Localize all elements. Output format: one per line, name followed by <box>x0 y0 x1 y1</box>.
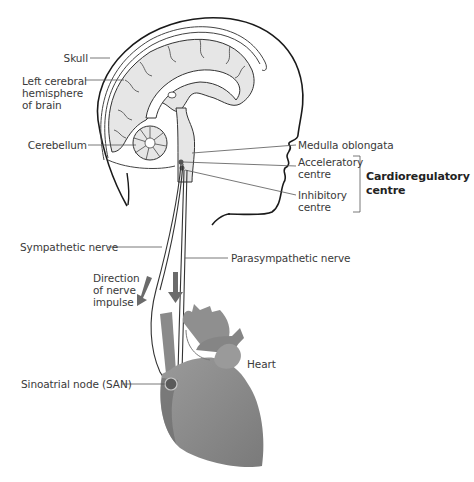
label-sympathetic-nerve: Sympathetic nerve <box>20 241 118 253</box>
label-direction-1: Direction <box>93 272 140 284</box>
cerebellum <box>133 126 167 160</box>
label-medulla-oblongata: Medulla oblongata <box>298 139 393 151</box>
label-acceleratory-1: Acceleratory <box>298 156 363 168</box>
label-inhibitory-1: Inhibitory <box>298 189 347 201</box>
label-left-cerebral-2: hemisphere <box>22 87 83 99</box>
sinoatrial-node <box>165 378 177 390</box>
label-cerebellum: Cerebellum <box>20 139 87 151</box>
medulla-oblongata <box>176 108 195 182</box>
acceleratory-centre <box>179 160 184 165</box>
label-direction-3: impulse <box>93 296 134 308</box>
label-left-cerebral-1: Left cerebral <box>22 75 87 87</box>
label-cardioregulatory-2: centre <box>366 184 405 198</box>
label-sinoatrial-node: Sinoatrial node (SAN) <box>21 378 132 390</box>
cardioregulatory-diagram: Skull Left cerebral hemisphere of brain … <box>0 0 474 482</box>
label-acceleratory-2: centre <box>298 168 331 180</box>
label-skull: Skull <box>40 52 88 64</box>
label-parasympathetic-nerve: Parasympathetic nerve <box>231 252 350 264</box>
label-left-cerebral-3: of brain <box>22 99 62 111</box>
label-heart: Heart <box>247 358 276 370</box>
label-inhibitory-2: centre <box>298 201 331 213</box>
label-direction-2: of nerve <box>93 284 136 296</box>
label-cardioregulatory-1: Cardioregulatory <box>366 170 470 184</box>
